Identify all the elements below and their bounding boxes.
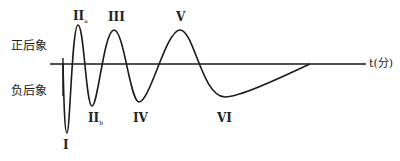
phase-label-III: III	[108, 11, 125, 23]
positive-afterimage-label: 正后象	[11, 40, 47, 52]
afterimage-diagram: 正后象 负后象 IIa III V IIb IV VI I t(分)	[0, 0, 400, 161]
diagram-canvas	[0, 0, 400, 161]
negative-afterimage-label: 负后象	[11, 85, 47, 97]
phase-label-I: I	[63, 139, 69, 151]
phase-label-V: V	[176, 11, 185, 23]
phase-label-IIa: IIa	[73, 10, 88, 24]
phase-label-VI: VI	[217, 112, 232, 124]
phase-label-IV: IV	[133, 112, 148, 124]
time-axis-label: t(分)	[369, 58, 393, 69]
phase-label-IIb: IIb	[88, 112, 103, 126]
